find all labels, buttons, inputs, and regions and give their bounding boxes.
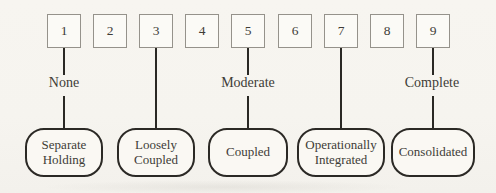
stage-separate-holding: Separate Holding <box>25 128 103 177</box>
scale-number-1: 1 <box>61 23 68 39</box>
connector-line-1-lower <box>63 96 65 128</box>
anchor-label-moderate: Moderate <box>221 73 275 93</box>
connector-line-3 <box>155 48 157 128</box>
scale-box-4: 4 <box>185 14 219 48</box>
scale-box-5: 5 <box>231 14 265 48</box>
scale-box-3: 3 <box>139 14 173 48</box>
scale-number-2: 2 <box>107 23 114 39</box>
connector-line-7 <box>340 48 342 128</box>
scale-number-4: 4 <box>199 23 206 39</box>
connector-line-9-lower <box>432 96 434 128</box>
scale-number-7: 7 <box>338 23 345 39</box>
connector-line-5-lower <box>247 96 249 128</box>
connector-line-9-upper <box>432 48 434 75</box>
scale-box-6: 6 <box>278 14 312 48</box>
scale-box-1: 1 <box>47 14 81 48</box>
scale-number-9: 9 <box>430 23 437 39</box>
stage-operationally-integrated: Operationally Integrated <box>297 128 385 177</box>
scale-box-8: 8 <box>370 14 404 48</box>
scale-number-6: 6 <box>292 23 299 39</box>
stage-loosely-coupled: Loosely Coupled <box>117 128 195 177</box>
scale-box-2: 2 <box>93 14 127 48</box>
scale-number-8: 8 <box>384 23 391 39</box>
scale-number-5: 5 <box>245 23 252 39</box>
scale-number-3: 3 <box>153 23 160 39</box>
anchor-label-none: None <box>49 73 79 93</box>
connector-line-1-upper <box>63 48 65 75</box>
connector-line-5-upper <box>247 48 249 75</box>
scale-box-7: 7 <box>324 14 358 48</box>
stage-consolidated: Consolidated <box>391 128 475 177</box>
integration-scale-diagram: 1 2 3 4 5 6 7 8 9 None Moderate Complete… <box>0 0 496 193</box>
stage-coupled: Coupled <box>208 128 288 177</box>
scale-box-9: 9 <box>416 14 450 48</box>
anchor-label-complete: Complete <box>405 73 459 93</box>
